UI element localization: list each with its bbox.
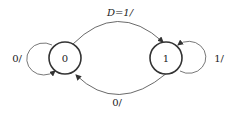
transition-label-s1-s0: 0/ [112, 97, 122, 108]
transition-s0-s1 [73, 21, 163, 44]
state-diagram: 0 1 D=1/ 0/ 0/ 1/ [0, 0, 234, 117]
transition-label-s0-s1: D=1/ [106, 7, 135, 18]
transition-s1-s0 [76, 73, 167, 95]
self-loop-label-s1: 1/ [214, 53, 224, 64]
state-label-s1: 1 [163, 53, 169, 64]
state-label-s0: 0 [62, 53, 68, 64]
self-loop-label-s0: 0/ [12, 53, 22, 64]
